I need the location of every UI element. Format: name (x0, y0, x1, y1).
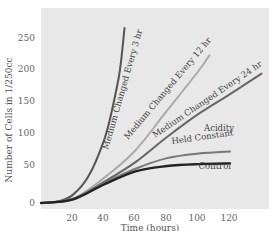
x-axis-title: Time (hours) (121, 223, 180, 231)
y-tick-50: 50 (24, 160, 36, 170)
y-tick-150: 150 (18, 96, 35, 106)
x-tick-100: 100 (188, 213, 205, 223)
x-tick-40: 40 (97, 213, 109, 223)
y-tick-250: 250 (18, 33, 35, 43)
x-axis: 20 40 60 80 100 120 Time (hours) (66, 213, 238, 231)
label-control: Control (199, 161, 232, 171)
y-tick-200: 200 (18, 64, 35, 74)
y-axis: 0 50 100 150 200 250 Number of Cells in … (4, 33, 35, 208)
y-axis-title: Number of Cells in 1/250cc (4, 57, 14, 182)
y-tick-100: 100 (18, 128, 35, 138)
y-tick-0: 0 (29, 198, 35, 208)
cell-growth-chart: 0 50 100 150 200 250 Number of Cells in … (0, 0, 274, 231)
x-tick-60: 60 (128, 213, 140, 223)
x-tick-120: 120 (220, 213, 237, 223)
x-tick-20: 20 (66, 213, 78, 223)
x-tick-80: 80 (160, 213, 172, 223)
